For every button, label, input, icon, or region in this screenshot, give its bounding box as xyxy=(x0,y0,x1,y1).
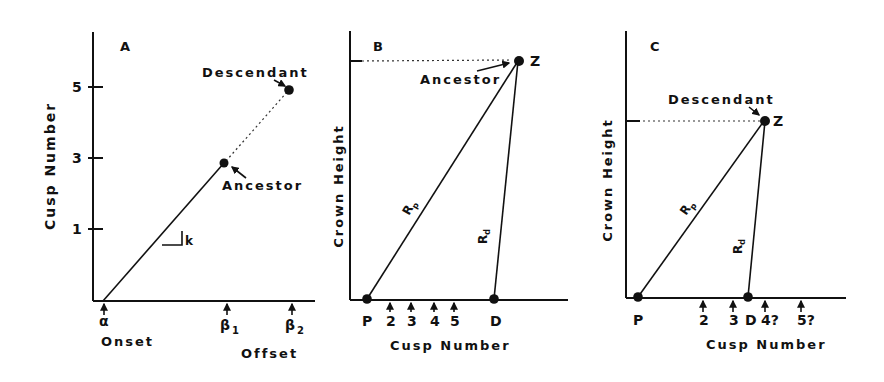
p-point xyxy=(633,292,643,302)
beta2-label: β2 xyxy=(285,317,304,336)
rp-label: Rp xyxy=(399,197,420,218)
x-tick-label: 2 xyxy=(699,312,709,328)
x-tick-label: P xyxy=(362,313,372,329)
rd-label: Rd xyxy=(731,239,747,254)
rp-line xyxy=(367,61,518,299)
descendant-point xyxy=(284,85,294,95)
panel-letter: B xyxy=(373,39,385,54)
x-tick-label: P xyxy=(633,312,643,328)
y-tick-label: 3 xyxy=(72,150,82,166)
ancestor-arrow xyxy=(477,63,509,71)
ancestor-arrow xyxy=(232,167,246,178)
beta1-label: β1 xyxy=(220,317,239,336)
ancestor-label: Ancestor xyxy=(222,178,303,193)
descendant-arrow xyxy=(749,107,759,115)
onset-label: Onset xyxy=(101,334,154,349)
y-axis-label: Crown Height xyxy=(331,124,346,248)
d-point xyxy=(743,292,753,302)
descendant-label: Descendant xyxy=(668,92,775,107)
p-point xyxy=(362,294,372,304)
z-point xyxy=(760,116,770,126)
descendant-label: Descendant xyxy=(202,65,309,80)
extension-dotted-line xyxy=(226,92,287,161)
rd-line xyxy=(748,121,765,297)
x-tick-label: D xyxy=(490,313,502,329)
height-dotted-line xyxy=(362,60,512,61)
descendant-arrow xyxy=(274,80,285,86)
rd-label: Rd xyxy=(476,229,492,244)
ancestor-point xyxy=(220,159,229,168)
y-axis-label: Crown Height xyxy=(600,118,615,242)
x-tick-label: 5? xyxy=(797,312,815,328)
ancestor-label: Ancestor xyxy=(420,72,501,87)
y-tick-label: 1 xyxy=(72,221,82,237)
panel-letter: C xyxy=(650,39,662,54)
panel-letter: A xyxy=(120,39,132,54)
apex-label: Z xyxy=(530,53,540,69)
x-axis-label: Cusp Number xyxy=(706,337,827,352)
y-tick-label: 5 xyxy=(72,79,82,95)
x-tick-label: 5 xyxy=(450,313,460,329)
z-point xyxy=(514,56,524,66)
slope-label: k xyxy=(185,234,194,248)
offset-label: Offset xyxy=(241,346,298,361)
d-point xyxy=(489,294,499,304)
x-tick-label: 3 xyxy=(407,313,417,329)
rp-line xyxy=(638,121,764,297)
x-tick-label: 2 xyxy=(386,313,396,329)
panel-b: B Crown Height Z Ancestor Rp Rd P 2 3 4 … xyxy=(331,31,568,353)
alpha-label: α xyxy=(99,313,109,329)
x-tick-label: 4? xyxy=(761,312,779,328)
panel-a: A 5 3 1 Cusp Number k Descendant Ancesto… xyxy=(42,32,315,361)
growth-line xyxy=(103,163,224,301)
x-axis-label: Cusp Number xyxy=(390,338,511,353)
panel-c: C Crown Height Z Descendant Rp Rd P 2 3 … xyxy=(600,31,846,352)
rd-line xyxy=(494,61,518,299)
figure: A 5 3 1 Cusp Number k Descendant Ancesto… xyxy=(0,0,884,382)
y-axis-label: Cusp Number xyxy=(42,102,58,230)
x-tick-label: 4 xyxy=(430,313,440,329)
apex-label: Z xyxy=(773,113,783,129)
x-tick-label: 3 xyxy=(729,312,739,328)
slope-marker xyxy=(162,231,182,245)
x-tick-label: D xyxy=(745,312,757,328)
